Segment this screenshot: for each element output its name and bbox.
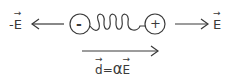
spring-coil [90,14,145,30]
dipole-moment-symbol: d [95,64,103,76]
field-symbol: E [123,64,131,76]
negative-charge-sign: - [76,17,82,31]
left-field-label: -E [9,18,22,31]
polarizability-symbol: α [113,60,123,78]
positive-charge-sign: + [150,17,161,30]
right-field-label: E [213,18,221,31]
dipole-moment-label: d=αE [95,62,130,77]
equals-sign: = [103,63,113,77]
right-field-symbol: E [213,18,221,31]
left-field-symbol: E [14,18,22,31]
